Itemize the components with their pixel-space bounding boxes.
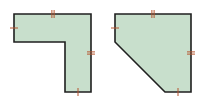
- l-shape-outline: [14, 14, 91, 92]
- cut-corner-pentagon: [111, 10, 195, 96]
- cut-corner-pentagon-outline: [115, 14, 191, 92]
- l-shape: [10, 10, 95, 96]
- geometry-diagram: [0, 0, 205, 102]
- diagram-canvas: [0, 0, 205, 102]
